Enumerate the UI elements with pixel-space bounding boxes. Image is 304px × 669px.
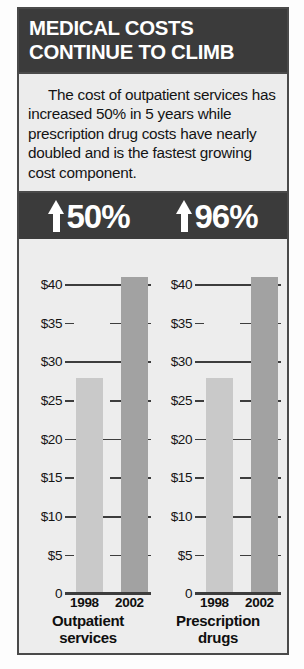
y-tick-label: $30 xyxy=(25,355,65,369)
x-year-1998-outpatient: 1998 xyxy=(70,595,99,610)
y-tick-label: $20 xyxy=(25,432,65,446)
y-tick-label: 0 xyxy=(25,587,65,601)
x-year-2002-outpatient: 2002 xyxy=(115,595,144,610)
y-tick-label: $30 xyxy=(155,355,195,369)
y-tick-label: $20 xyxy=(155,432,195,446)
infographic-card: MEDICAL COSTS CONTINUE TO CLIMB The cost… xyxy=(17,7,289,655)
bars-outpatient xyxy=(65,246,151,594)
y-tick-label: $35 xyxy=(25,316,65,330)
y-tick-label: 0 xyxy=(155,587,195,601)
y-tick-label: $35 xyxy=(155,316,195,330)
headline-line-1: MEDICAL COSTS xyxy=(29,16,270,40)
y-tick-label: $25 xyxy=(25,394,65,408)
deck-text: The cost of outpatient services has incr… xyxy=(28,85,278,182)
plot-area-outpatient: 0$5$10$15$20$25$30$35$40 xyxy=(25,246,153,594)
deck-block: The cost of outpatient services has incr… xyxy=(19,72,287,193)
y-tick-label: $5 xyxy=(155,548,195,562)
up-arrow-icon xyxy=(48,200,65,232)
chart-title-prescription: Prescription drugs xyxy=(153,612,283,647)
y-tick-label: $40 xyxy=(155,278,195,292)
plot-area-prescription: 0$5$10$15$20$25$30$35$40 xyxy=(155,246,283,594)
chart-title-outpatient-line1: Outpatient xyxy=(23,613,153,630)
percent-value-outpatient: 50% xyxy=(66,200,129,233)
percent-value-prescription: 96% xyxy=(194,200,257,233)
percent-change-outpatient: 50% xyxy=(48,200,129,233)
bar-2002-outpatient xyxy=(121,277,148,594)
chart-prescription-drugs: 0$5$10$15$20$25$30$35$40 1998 2002 Presc… xyxy=(153,246,283,647)
headline-line-2: CONTINUE TO CLIMB xyxy=(29,40,270,64)
up-arrow-icon xyxy=(176,200,193,232)
bars-prescription xyxy=(195,246,281,594)
y-tick-label: $40 xyxy=(25,278,65,292)
chart-outpatient-services: 0$5$10$15$20$25$30$35$40 1998 2002 Outpa… xyxy=(23,246,153,647)
charts-panel: 0$5$10$15$20$25$30$35$40 1998 2002 Outpa… xyxy=(19,239,287,653)
x-year-2002-prescription: 2002 xyxy=(245,595,274,610)
headline-band: MEDICAL COSTS CONTINUE TO CLIMB xyxy=(19,9,287,72)
y-tick-label: $10 xyxy=(25,510,65,524)
bar-2002-prescription xyxy=(251,277,278,594)
y-tick-label: $25 xyxy=(155,394,195,408)
bar-1998-outpatient xyxy=(76,378,103,595)
y-tick-label: $10 xyxy=(155,510,195,524)
chart-title-prescription-line1: Prescription xyxy=(153,613,283,630)
x-axis-years-prescription: 1998 2002 xyxy=(195,594,281,612)
x-axis-years-outpatient: 1998 2002 xyxy=(65,594,151,612)
y-tick-label: $15 xyxy=(155,471,195,485)
y-tick-label: $15 xyxy=(25,471,65,485)
percent-change-prescription: 96% xyxy=(176,200,257,233)
chart-title-prescription-line2: drugs xyxy=(153,630,283,647)
percent-change-band: 50% 96% xyxy=(19,193,287,239)
x-year-1998-prescription: 1998 xyxy=(200,595,229,610)
y-tick-label: $5 xyxy=(25,548,65,562)
chart-title-outpatient: Outpatient services xyxy=(23,612,153,647)
chart-title-outpatient-line2: services xyxy=(23,630,153,647)
bar-1998-prescription xyxy=(206,378,233,595)
infographic-page: MEDICAL COSTS CONTINUE TO CLIMB The cost… xyxy=(0,0,304,669)
